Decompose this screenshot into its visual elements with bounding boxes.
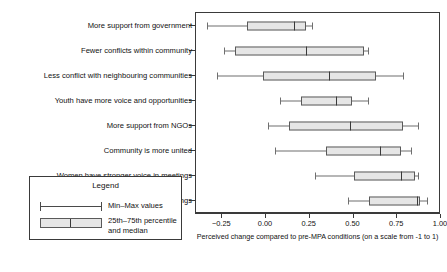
box-iqr [326,147,401,156]
x-axis-tick-label: 0.00 [258,219,272,228]
whisker-cap-min [217,72,218,79]
whisker-cap-min [268,123,269,130]
plot-area [195,12,440,213]
median-line [294,21,295,30]
box-iqr [247,21,307,30]
whisker-cap-min [315,173,316,180]
whisker-cap-min [275,148,276,155]
x-axis-tick-label: 0.25 [302,219,316,228]
y-axis-category-label: Fewer conflicts within community [81,45,192,54]
box-iqr [369,197,420,206]
whisker-cap-max [403,72,404,79]
box-iqr [301,96,352,105]
x-axis-tick-label: 0.50 [345,219,359,228]
x-axis-tick-label: −0.25 [212,219,231,228]
x-axis-tick [396,214,397,218]
x-axis-tick [265,214,266,218]
whisker-cap-max [418,123,419,130]
median-line [401,172,402,181]
whisker-lower [275,151,326,152]
whisker-cap-min [207,22,208,29]
legend-minmax-icon [40,202,102,211]
whisker-cap-max [312,22,313,29]
legend-box-label: 25th–75th percentile and median [108,216,180,235]
legend-title: Legend [30,181,181,190]
box-iqr [354,172,415,181]
y-axis-category-label: Youth have more voice and opportunities [55,95,192,104]
median-line [380,147,381,156]
whisker-cap-max [368,97,369,104]
whisker-upper [352,100,368,101]
whisker-lower [217,75,263,76]
whisker-lower [268,126,289,127]
x-axis-tick [353,214,354,218]
whisker-cap-max [418,173,419,180]
y-axis-category-label: Community is more united [104,146,192,155]
whisker-upper [420,201,427,202]
whisker-cap-max [368,47,369,54]
whisker-upper [401,151,412,152]
y-axis-category-label: More support from government [88,20,192,29]
median-line [306,46,307,55]
median-line [417,197,418,206]
y-axis-category-label: More support from NGOs [107,121,192,130]
x-axis-tick [221,214,222,218]
x-axis-tick [309,214,310,218]
box-iqr [289,122,403,131]
legend-box-icon [40,218,102,228]
whisker-cap-max [411,148,412,155]
whisker-cap-min [280,97,281,104]
whisker-upper [403,126,419,127]
x-axis-tick [440,214,441,218]
whisker-lower [224,50,235,51]
whisker-lower [348,201,369,202]
whisker-lower [280,100,301,101]
x-axis-tick-label: 0.75 [389,219,403,228]
median-line [336,96,337,105]
y-axis-category-label: Less conflict with neighbouring communit… [44,70,192,79]
median-line [329,71,330,80]
whisker-lower [315,176,354,177]
box-iqr [235,46,365,55]
legend-minmax-label: Min–Max values [108,201,163,210]
legend: Legend Min–Max values 25th–75th percenti… [29,176,182,240]
whisker-cap-min [348,198,349,205]
whisker-cap-min [224,47,225,54]
whisker-cap-max [427,198,428,205]
x-axis-line [195,213,440,214]
whisker-upper [376,75,402,76]
median-line [350,122,351,131]
x-axis-title: Perceived change compared to pre-MPA con… [195,232,440,241]
x-axis-tick-label: 1.00 [433,219,447,228]
whisker-lower [207,25,247,26]
box-iqr [263,71,377,80]
